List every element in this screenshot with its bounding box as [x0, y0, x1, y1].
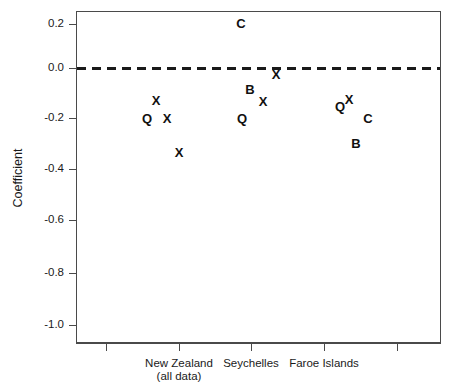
data-point-marker: Q — [237, 112, 247, 125]
data-point-marker: C — [236, 17, 245, 30]
x-axis-tick — [179, 343, 180, 351]
zero-reference-line — [77, 67, 440, 70]
coefficient-scatter-figure: 0.20.0-0.2-0.4-0.6-0.8-1.0 Coefficient N… — [0, 0, 449, 388]
data-point-marker: X — [152, 94, 161, 107]
y-axis-title: Coefficient — [11, 149, 25, 208]
x-axis-tick-label: New Zealand(all data) — [145, 357, 213, 383]
y-axis-tick — [69, 24, 76, 25]
y-axis-tick-label: -0.6 — [20, 214, 64, 226]
y-axis-tick — [69, 325, 76, 326]
data-point-marker: X — [259, 95, 268, 108]
y-axis-tick — [69, 68, 76, 69]
y-axis-tick-label: -0.4 — [20, 163, 64, 175]
data-point-marker: X — [175, 146, 184, 159]
y-axis-tick-label: 0.2 — [20, 18, 64, 30]
plot-area — [76, 11, 441, 343]
y-axis-tick — [69, 118, 76, 119]
y-axis-tick-label: -0.2 — [20, 112, 64, 124]
data-point-marker: X — [345, 93, 354, 106]
y-axis-tick — [69, 273, 76, 274]
x-axis-tick-sublabel: (all data) — [145, 370, 213, 383]
data-point-marker: Q — [142, 112, 152, 125]
y-axis-tick — [69, 220, 76, 221]
x-axis-tick-label-text: New Zealand — [145, 357, 213, 369]
data-point-marker: C — [363, 112, 372, 125]
y-axis-tick-label: -0.8 — [20, 267, 64, 279]
x-axis-line — [76, 343, 441, 344]
y-axis-tick-label: -1.0 — [20, 319, 64, 331]
y-axis-tick — [69, 169, 76, 170]
data-point-marker: B — [245, 83, 254, 96]
x-axis-tick — [397, 343, 398, 351]
data-point-marker: Q — [335, 100, 345, 113]
x-axis-tick-label: Seychelles — [223, 357, 279, 370]
x-axis-tick-label: Faroe Islands — [289, 357, 359, 370]
x-axis-tick-label-text: Seychelles — [223, 357, 279, 369]
x-axis-tick-label-text: Faroe Islands — [289, 357, 359, 369]
data-point-marker: X — [163, 112, 172, 125]
data-point-marker: X — [272, 68, 281, 81]
x-axis-tick — [106, 343, 107, 351]
x-axis-tick — [251, 343, 252, 351]
y-axis-tick-label: 0.0 — [20, 62, 64, 74]
data-point-marker: B — [351, 137, 360, 150]
x-axis-tick — [324, 343, 325, 351]
